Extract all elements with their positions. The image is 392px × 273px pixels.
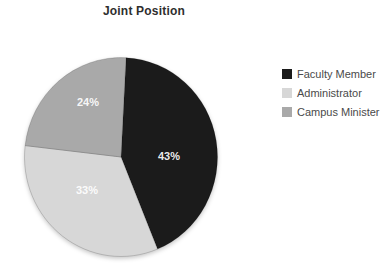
chart-canvas: Joint Position 43%33%24% Faculty MemberA… bbox=[0, 0, 392, 273]
legend-item-campus-minister: Campus Minister bbox=[282, 106, 380, 118]
chart-title: Joint Position bbox=[0, 4, 288, 18]
legend: Faculty MemberAdministratorCampus Minist… bbox=[282, 68, 380, 125]
legend-label: Faculty Member bbox=[297, 68, 376, 80]
legend-swatch-administrator bbox=[282, 88, 292, 98]
pie-slice-campus-minister bbox=[25, 58, 126, 157]
legend-label: Campus Minister bbox=[297, 106, 380, 118]
legend-item-faculty-member: Faculty Member bbox=[282, 68, 380, 80]
legend-item-administrator: Administrator bbox=[282, 87, 380, 99]
legend-label: Administrator bbox=[297, 87, 362, 99]
legend-swatch-faculty-member bbox=[282, 69, 292, 79]
legend-swatch-campus-minister bbox=[282, 107, 292, 117]
pie-chart bbox=[24, 57, 218, 257]
